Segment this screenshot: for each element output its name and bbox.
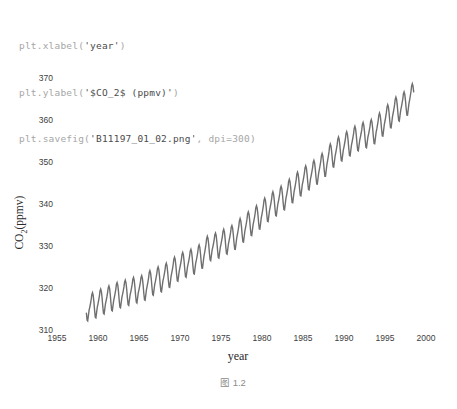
y-axis-label-subscript: 2 xyxy=(20,230,29,234)
y-axis-label: CO2(ppmv) xyxy=(13,164,28,282)
x-tick-label: 1970 xyxy=(171,333,190,343)
x-axis-label: year xyxy=(178,349,298,364)
y-tick-label: 350 xyxy=(39,157,53,167)
y-axis-label-text: CO xyxy=(13,234,25,250)
y-tick-label: 310 xyxy=(39,325,53,335)
x-tick-label: 1990 xyxy=(335,333,354,343)
y-tick-label: 320 xyxy=(39,283,53,293)
x-tick-label: 2000 xyxy=(417,333,436,343)
x-tick-label: 1965 xyxy=(130,333,149,343)
x-tick-label: 1995 xyxy=(376,333,395,343)
book-page: plt.xlabel('year') plt.ylabel('$CO_2$ (p… xyxy=(0,0,457,409)
x-tick-label: 1975 xyxy=(212,333,231,343)
y-tick-label: 360 xyxy=(39,115,53,125)
plot-area xyxy=(0,0,457,409)
figure-caption: 图 1.2 xyxy=(163,375,303,389)
x-tick-label: 1960 xyxy=(89,333,108,343)
x-tick-label: 1980 xyxy=(253,333,272,343)
co2-data-line xyxy=(86,84,413,321)
y-tick-label: 330 xyxy=(39,241,53,251)
y-tick-label: 340 xyxy=(39,199,53,209)
x-tick-label: 1985 xyxy=(294,333,313,343)
y-axis-label-unit: (ppmv) xyxy=(13,196,25,230)
y-tick-label: 370 xyxy=(39,73,53,83)
